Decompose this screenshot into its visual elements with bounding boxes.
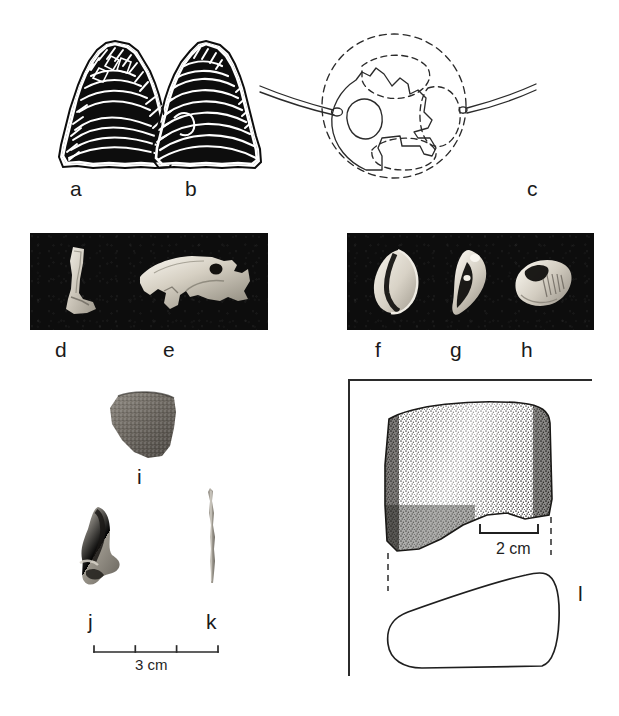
figure-label-k: k [206, 611, 217, 632]
scale-label-2cm: 2 cm [496, 541, 531, 557]
artifact-photo-h [507, 255, 577, 313]
figure-label-a: a [70, 178, 82, 199]
photo-panel-fgh [347, 233, 594, 330]
artifact-photo-e [124, 247, 252, 319]
figure-label-j: j [88, 611, 93, 632]
photo-panel-de [30, 233, 268, 330]
figure-label-d: d [55, 339, 67, 360]
artifact-drawing-c [232, 28, 552, 188]
artifact-photo-d [56, 245, 104, 323]
artifact-photo-i [96, 390, 192, 462]
figure-label-g: g [450, 339, 462, 360]
scale-bar-2cm [476, 521, 556, 541]
figure-label-f: f [375, 339, 381, 360]
figure-label-i: i [137, 466, 142, 487]
artifact-drawing-l-section [374, 568, 570, 680]
artifact-photo-g [439, 248, 495, 318]
figure-label-h: h [521, 339, 533, 360]
figure-label-b: b [185, 178, 197, 199]
artifact-photo-j [74, 505, 130, 593]
figure-plate: a b [0, 0, 619, 716]
panel-frame-top [348, 379, 592, 381]
figure-label-c: c [527, 178, 538, 199]
figure-label-e: e [163, 339, 175, 360]
panel-frame-left [348, 379, 350, 676]
artifact-photo-f [365, 247, 425, 319]
scale-label-3cm: 3 cm [135, 657, 168, 672]
artifact-photo-k [200, 487, 224, 587]
figure-label-l: l [578, 583, 583, 604]
